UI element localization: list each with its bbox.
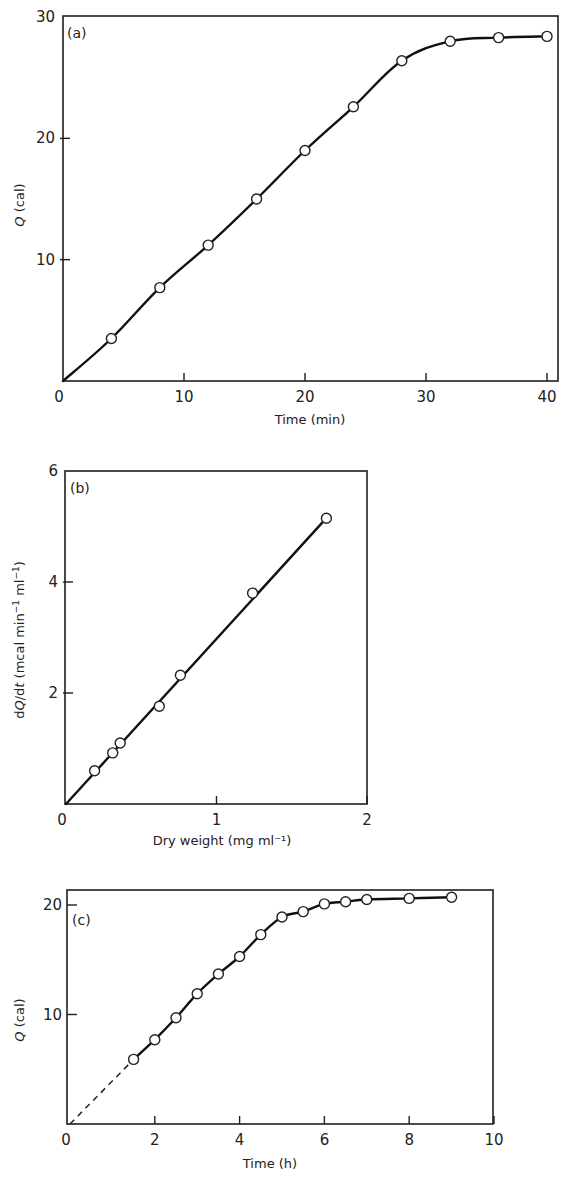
panel-a-data-points	[106, 31, 552, 343]
panel-c-x-tick-label: 8	[404, 1131, 414, 1149]
panel-c-x-tick-label: 0	[61, 1131, 71, 1149]
chart-figure: 010203040102030 (a) Time (min) Q (cal) 0…	[0, 0, 568, 1177]
panel-a-data-line	[63, 36, 547, 381]
panel-c-x-tick-label: 6	[320, 1131, 330, 1149]
panel-b-data-point	[321, 513, 331, 523]
panel-a-data-point	[445, 36, 455, 46]
panel-a-data-point	[494, 33, 504, 43]
panel-c-data-point	[235, 952, 245, 962]
panel-c-data-line	[134, 897, 452, 1059]
panel-c-x-axis-label: Time (h)	[242, 1156, 297, 1171]
panel-b-y-tick-label: 6	[48, 462, 58, 480]
panel-c-data-point	[298, 907, 308, 917]
panel-a-frame	[63, 16, 558, 381]
panel-a-data-point	[300, 146, 310, 156]
panel-c-x-tick-label: 2	[150, 1131, 160, 1149]
panel-c-ticks	[67, 905, 494, 1124]
panel-a-data-point	[106, 334, 116, 344]
panel-c-data-point	[192, 989, 202, 999]
panel-a-data-point	[203, 240, 213, 250]
panel-c-label: (c)	[72, 912, 91, 928]
panel-b-x-axis-label: Dry weight (mg ml⁻¹)	[153, 833, 292, 848]
panel-c-data-point	[447, 892, 457, 902]
panel-a-label: (a)	[67, 25, 87, 41]
panel-c-y-tick-label: 20	[43, 896, 62, 914]
panel-a-data-point	[348, 102, 358, 112]
panel-c-y-tick-label: 10	[43, 1006, 62, 1024]
panel-a-data-point	[542, 31, 552, 41]
panel-c-data-point	[362, 895, 372, 905]
panel-c-data-point	[277, 912, 287, 922]
panel-c-data-points	[129, 892, 457, 1064]
panel-a-x-axis-label: Time (min)	[274, 412, 346, 427]
panel-a-x-tick-label: 0	[54, 388, 64, 406]
panel-b-data-point	[175, 670, 185, 680]
panel-a-y-axis-label: Q (cal)	[12, 183, 27, 226]
panel-c-frame	[67, 890, 493, 1124]
panel-b-ticks	[63, 582, 367, 804]
panel-b-data-point	[154, 701, 164, 711]
panel-b-y-axis-label: dQ/dt (mcal min−1 ml−1)	[11, 561, 27, 719]
panel-c-chart: 02468101020 (c) Time (h) Q (cal)	[12, 890, 504, 1171]
panel-c-data-point	[213, 969, 223, 979]
figure: 010203040102030 (a) Time (min) Q (cal) 0…	[0, 0, 568, 1177]
panel-c-data-point	[256, 930, 266, 940]
panel-b-y-tick-label: 4	[48, 573, 58, 591]
panel-a-x-tick-label: 30	[416, 388, 435, 406]
panel-b-data-line	[66, 518, 326, 804]
panel-a-data-point	[252, 194, 262, 204]
panel-a-y-tick-label: 30	[36, 8, 55, 26]
panel-a-y-tick-label: 10	[36, 251, 55, 269]
panel-b-data-point	[115, 738, 125, 748]
panel-a-x-tick-label: 20	[295, 388, 314, 406]
panel-c-x-tick-label: 10	[484, 1131, 503, 1149]
panel-c-extrapolation-dashed-line	[70, 1059, 134, 1124]
panel-a-chart: 010203040102030 (a) Time (min) Q (cal)	[12, 8, 558, 427]
panel-a-x-tick-label: 40	[537, 388, 556, 406]
panel-c-data-point	[319, 899, 329, 909]
panel-c-data-point	[129, 1054, 139, 1064]
panel-b-data-point	[90, 766, 100, 776]
panel-b-label: (b)	[70, 480, 90, 496]
panel-a-x-tick-label: 10	[174, 388, 193, 406]
panel-c-data-point	[404, 893, 414, 903]
panel-b-y-tick-label: 2	[48, 684, 58, 702]
panel-b-chart: 012246 (b) Dry weight (mg ml⁻¹) dQ/dt (m…	[11, 462, 372, 848]
panel-b-data-point	[108, 748, 118, 758]
panel-a-y-tick-label: 20	[36, 129, 55, 147]
panel-b-x-tick-label: 0	[57, 811, 67, 829]
panel-a-ticks	[60, 138, 547, 381]
panel-a-tick-labels: 010203040102030	[36, 8, 557, 406]
panel-b-x-tick-label: 1	[212, 811, 222, 829]
panel-a-data-point	[397, 56, 407, 66]
panel-c-tick-labels: 02468101020	[43, 896, 504, 1149]
panel-c-data-point	[341, 897, 351, 907]
panel-b-data-point	[248, 588, 258, 598]
panel-c-data-point	[150, 1035, 160, 1045]
panel-b-x-tick-label: 2	[362, 811, 372, 829]
panel-c-x-tick-label: 4	[235, 1131, 245, 1149]
panel-c-data-point	[171, 1013, 181, 1023]
panel-a-data-point	[155, 283, 165, 293]
panel-c-y-axis-label: Q (cal)	[12, 998, 27, 1041]
